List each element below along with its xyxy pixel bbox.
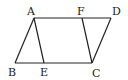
label-d: D: [112, 5, 121, 18]
segment-ab: [15, 18, 34, 63]
label-c: C: [92, 67, 100, 80]
segment-ae: [34, 18, 44, 63]
label-a: A: [26, 5, 36, 18]
segment-dc: [92, 18, 111, 63]
label-f: F: [77, 5, 85, 18]
segment-fc: [82, 18, 92, 63]
label-b: B: [8, 66, 16, 79]
parallelogram-diagram: A F D B E C: [0, 0, 128, 80]
label-e: E: [40, 66, 48, 79]
